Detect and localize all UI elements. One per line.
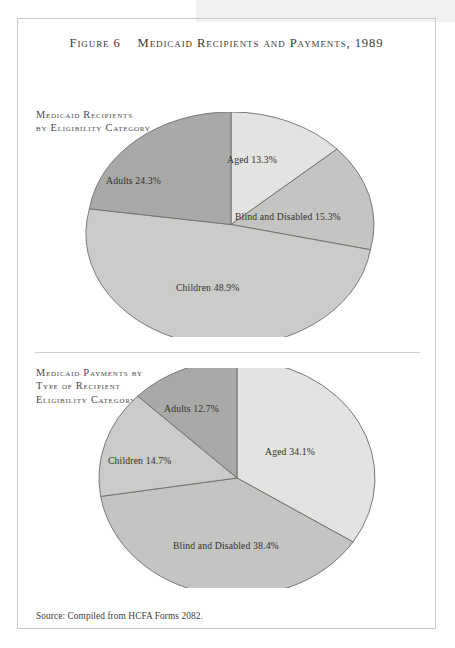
pie-chart-payments: Aged 34.1% Blind and Disabled 38.4% Chil… bbox=[77, 368, 397, 592]
pie-chart-payments-svg bbox=[77, 368, 397, 588]
pie-label-adults: Adults 24.3% bbox=[106, 175, 161, 186]
panel-divider bbox=[35, 352, 420, 353]
figure-title: Figure 6 Medicaid Recipients and Payment… bbox=[17, 36, 436, 51]
figure-number: 6 bbox=[114, 36, 121, 50]
pie-slice-adults bbox=[89, 112, 231, 225]
source-note: Source: Compiled from HCFA Forms 2082. bbox=[36, 611, 203, 621]
panel-payments: Medicaid Payments by Type of Recipient E… bbox=[17, 356, 436, 596]
pie-label-children: Children 48.9% bbox=[176, 282, 239, 293]
pie-label-adults: Adults 12.7% bbox=[164, 403, 219, 414]
pie-chart-recipients: Aged 13.3% Blind and Disabled 15.3% Chil… bbox=[66, 112, 396, 341]
pie-label-aged: Aged 13.3% bbox=[227, 154, 277, 165]
pie-label-blind-disabled: Blind and Disabled 15.3% bbox=[235, 211, 341, 222]
panel-recipients: Medicaid Recipients by Eligibility Categ… bbox=[17, 96, 436, 346]
pie-label-blind-disabled: Blind and Disabled 38.4% bbox=[173, 540, 279, 551]
pie-label-children: Children 14.7% bbox=[108, 455, 171, 466]
figure-title-text: Medicaid Recipients and Payments, 1989 bbox=[138, 36, 384, 50]
pie-chart-recipients-svg bbox=[66, 112, 396, 337]
pie-label-aged: Aged 34.1% bbox=[265, 446, 315, 457]
figure-label: Figure bbox=[70, 36, 110, 50]
